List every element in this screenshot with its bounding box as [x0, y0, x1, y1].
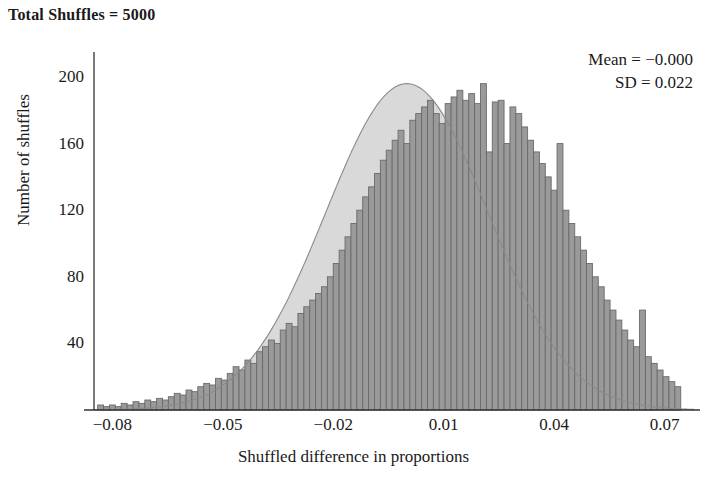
- histogram-bar: [174, 393, 180, 410]
- histogram-bar: [445, 104, 451, 410]
- histogram-bar: [475, 104, 481, 410]
- histogram-bar: [669, 382, 675, 410]
- histogram-bar: [581, 250, 587, 410]
- y-tick-label: 80: [38, 267, 84, 287]
- histogram-bar: [215, 378, 221, 410]
- histogram-bar: [486, 152, 492, 410]
- histogram-bar: [186, 390, 192, 410]
- histogram-bar: [245, 360, 251, 410]
- histogram-bar: [380, 160, 386, 410]
- histogram-bar: [433, 114, 439, 410]
- histogram-bar: [439, 124, 445, 410]
- y-tick-label: 120: [38, 200, 84, 220]
- histogram-bar: [357, 210, 363, 410]
- histogram-bar: [534, 152, 540, 410]
- y-axis-label: Number of shuffles: [14, 40, 34, 280]
- histogram-bar: [227, 373, 233, 410]
- histogram-bar: [528, 140, 534, 410]
- histogram-bar: [645, 357, 651, 410]
- histogram-bar: [257, 352, 263, 410]
- histogram-bar: [622, 330, 628, 410]
- histogram-bar: [640, 310, 646, 410]
- histogram-bar: [492, 102, 498, 410]
- histogram-bar: [280, 330, 286, 410]
- histogram-bar: [321, 287, 327, 410]
- histogram-bar: [151, 402, 157, 410]
- x-tick-label: −0.02: [314, 415, 353, 435]
- histogram-bar: [162, 400, 168, 410]
- histogram-bar: [428, 100, 434, 410]
- histogram-bar: [575, 237, 581, 410]
- histogram-bar: [463, 100, 469, 410]
- histogram-bar: [339, 250, 345, 410]
- y-tick-label: 200: [38, 67, 84, 87]
- histogram-bar: [398, 130, 404, 410]
- histogram-bar: [510, 107, 516, 410]
- histogram-bar: [516, 114, 522, 410]
- histogram-bar: [239, 370, 245, 410]
- histogram-bar: [363, 197, 369, 410]
- histogram-bar: [451, 97, 457, 410]
- histogram-bar: [369, 187, 375, 410]
- histogram-bar: [251, 363, 257, 410]
- histogram-bar: [274, 343, 280, 410]
- histogram-bar: [157, 398, 163, 410]
- x-tick-label: 0.01: [429, 415, 459, 435]
- histogram-bar: [286, 323, 292, 410]
- histogram-bar: [663, 377, 669, 410]
- histogram-bar: [657, 370, 663, 410]
- histogram-bar: [569, 224, 575, 410]
- histogram-bar: [551, 190, 557, 410]
- histogram-bar: [168, 397, 174, 410]
- histogram-bar: [628, 340, 634, 410]
- x-tick-label: 0.04: [539, 415, 569, 435]
- histogram-bar: [469, 94, 475, 410]
- histogram-bar: [310, 300, 316, 410]
- histogram-bar: [316, 293, 322, 410]
- histogram-bar: [410, 120, 416, 410]
- histogram-bar: [351, 224, 357, 410]
- x-tick-label: −0.05: [203, 415, 242, 435]
- histogram-bar: [457, 90, 463, 410]
- histogram-bar: [345, 237, 351, 410]
- histogram-bar: [333, 263, 339, 410]
- histogram-plot: 4080120160200 −0.08−0.05−0.020.010.040.0…: [0, 0, 707, 484]
- histogram-bar: [210, 385, 216, 410]
- histogram-bar: [292, 327, 298, 410]
- histogram-bar: [404, 144, 410, 410]
- chart-canvas: [0, 0, 707, 484]
- histogram-bar: [498, 100, 504, 410]
- histogram-bar: [634, 347, 640, 410]
- histogram-bar: [386, 150, 392, 410]
- histogram-bar: [545, 177, 551, 410]
- histogram-bar: [416, 114, 422, 410]
- x-tick-label: −0.08: [93, 415, 132, 435]
- histogram-bar: [563, 210, 569, 410]
- histogram-bar: [522, 127, 528, 410]
- histogram-bar: [204, 383, 210, 410]
- histogram-bar: [651, 363, 657, 410]
- histogram-bar: [192, 392, 198, 410]
- histogram-bar: [392, 140, 398, 410]
- x-axis-label: Shuffled difference in proportions: [0, 447, 707, 467]
- y-axis-ticks: 4080120160200: [0, 0, 84, 484]
- x-tick-label: 0.07: [650, 415, 680, 435]
- histogram-bar: [263, 347, 269, 410]
- histogram-bar: [504, 144, 510, 410]
- histogram-bar: [374, 174, 380, 410]
- histogram-bar: [327, 277, 333, 410]
- histogram-bar: [539, 164, 545, 410]
- histogram-bar: [675, 387, 681, 410]
- histogram-bar: [610, 310, 616, 410]
- histogram-bar: [616, 320, 622, 410]
- histogram-bar: [587, 263, 593, 410]
- y-tick-label: 40: [38, 333, 84, 353]
- histogram-bar: [481, 84, 487, 410]
- histogram-bar: [422, 107, 428, 410]
- histogram-bar: [557, 144, 563, 410]
- y-tick-label: 160: [38, 134, 84, 154]
- histogram-bar: [304, 307, 310, 410]
- histogram-bar: [268, 340, 274, 410]
- histogram-bar: [298, 313, 304, 410]
